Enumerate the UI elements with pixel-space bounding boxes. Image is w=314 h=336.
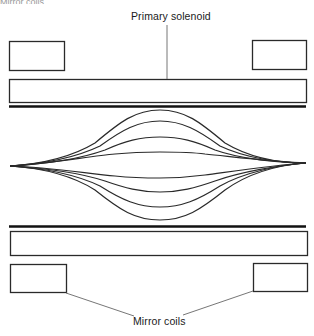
mirror-coil-bottom-right [254, 264, 308, 292]
field-line-1 [10, 110, 306, 166]
primary-solenoid-bottom [11, 232, 308, 256]
magnetic-mirror-diagram [0, 0, 314, 336]
mirror-coil-top-left [10, 42, 65, 71]
primary-solenoid-top [10, 80, 307, 103]
primary-solenoid-label: Primary solenoid [131, 10, 211, 22]
mirror-coils-label: Mirror coils [133, 315, 186, 327]
mirror-coils-leader-line-left [66, 293, 134, 316]
mirror-coils-leader-line-right [183, 291, 253, 315]
mirror-coil-top-right [253, 41, 307, 70]
mirror-coil-bottom-left [11, 265, 67, 293]
magnetic-field-lines [10, 110, 306, 220]
